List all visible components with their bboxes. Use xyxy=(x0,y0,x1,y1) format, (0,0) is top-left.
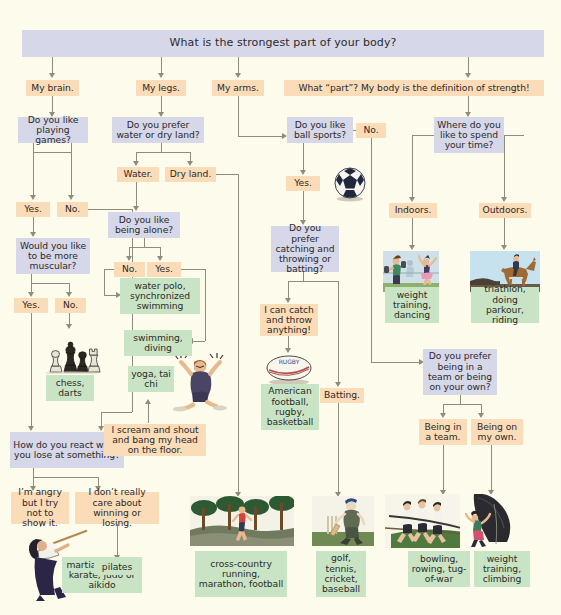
answer-muscular-no[interactable]: No. xyxy=(55,298,86,313)
arrow-musc-no xyxy=(66,292,72,297)
result-chess-darts: chess, darts xyxy=(46,375,94,401)
connector-games-bus xyxy=(33,152,71,153)
answer-what-part[interactable]: What “part”? My body is the definition o… xyxy=(284,80,544,96)
arrow-yes-muscular xyxy=(30,232,36,237)
result-weight-dancing: weight training, dancing xyxy=(385,287,439,323)
connector-gamesno-back xyxy=(101,412,132,413)
connector-cancatch-rugby xyxy=(288,336,289,348)
person-shouting-illustration xyxy=(172,352,236,412)
connector-lose-bus xyxy=(33,477,98,478)
connector-outdoors-triathlon xyxy=(504,218,505,245)
connector-aloneno-in xyxy=(104,295,116,296)
answer-i-scream[interactable]: I scream and shout and bang my head on t… xyxy=(104,424,206,456)
answer-muscular-yes[interactable]: Yes. xyxy=(14,298,48,313)
connector-arms-right xyxy=(238,136,282,137)
connector-dryland-right xyxy=(216,174,238,175)
arrow-where-indoors xyxy=(409,197,415,202)
answer-i-can-catch[interactable]: I can catch and throw anything! xyxy=(260,304,318,336)
connector-alone-no xyxy=(129,247,130,256)
connector-title-whatpart xyxy=(468,57,469,73)
connector-musc-no xyxy=(69,283,70,292)
answer-games-no[interactable]: No. xyxy=(57,202,88,217)
arrow-scream-yoga xyxy=(145,399,151,404)
connector-indoors-weight xyxy=(412,218,413,245)
answer-ball-no[interactable]: No. xyxy=(356,123,386,138)
answer-dry-land[interactable]: Dry land. xyxy=(165,167,216,182)
arrow-alone-yes xyxy=(157,256,163,261)
answer-water[interactable]: Water. xyxy=(117,167,159,182)
connector-alone-bus xyxy=(129,247,160,248)
question-catch-or-bat[interactable]: Do you prefer catching and throwing or b… xyxy=(271,226,339,272)
connector-myown-climbing xyxy=(491,445,492,490)
arrow-water-alone xyxy=(133,206,139,211)
connector-yes-muscular xyxy=(33,217,34,232)
answer-games-yes[interactable]: Yes. xyxy=(16,202,50,217)
question-more-muscular[interactable]: Would you like to be more muscular? xyxy=(16,238,90,274)
answer-my-arms[interactable]: My arms. xyxy=(212,80,264,96)
connector-title-arms xyxy=(238,57,239,73)
connector-legs-water xyxy=(161,96,162,112)
connector-aloneno-left xyxy=(104,269,114,270)
question-water-or-dryland[interactable]: Do you prefer water or dry land? xyxy=(112,117,204,143)
connector-title-brain xyxy=(52,57,53,73)
question-playing-games[interactable]: Do you like playing games? xyxy=(18,117,88,143)
answer-dont-really-care[interactable]: I don’t really care about winning or los… xyxy=(75,492,159,524)
answer-batting[interactable]: Batting. xyxy=(320,388,364,403)
connector-where-bus2 xyxy=(504,135,524,136)
connector-whatpart-where xyxy=(468,96,469,112)
answer-outdoors[interactable]: Outdoors. xyxy=(479,203,531,218)
connector-lose-left xyxy=(33,477,34,486)
question-where-spend-time[interactable]: Where do you like to spend your time? xyxy=(434,117,504,153)
connector-water-right xyxy=(190,152,191,161)
connector-ballno-down xyxy=(371,138,372,362)
result-american-football: American football, rugby, basketball xyxy=(261,384,319,430)
diagram-title: What is the strongest part of your body? xyxy=(22,30,544,57)
connector-yes-catch xyxy=(303,191,304,220)
arrow-musc-yes xyxy=(28,292,34,297)
result-weight-climbing: weight training, climbing xyxy=(474,551,530,587)
arrow-games-no xyxy=(68,195,74,200)
connector-ballno-right xyxy=(371,362,419,363)
connector-batting-golf xyxy=(338,403,339,492)
connector-water-a xyxy=(161,143,162,152)
tug-of-war-team-illustration xyxy=(385,494,471,548)
question-being-alone[interactable]: Do you like being alone? xyxy=(108,212,180,238)
answer-being-in-a-team[interactable]: Being in a team. xyxy=(419,419,467,445)
arrow-outdoors-triathlon xyxy=(501,245,507,250)
connector-games-no xyxy=(71,143,72,195)
connector-where-bus xyxy=(412,135,434,136)
result-swimming-diving: swimming, diving xyxy=(124,330,192,356)
connector-muscno-chess xyxy=(69,313,70,324)
answer-im-angry[interactable]: I’m angry but I try not to show it. xyxy=(11,492,69,524)
answer-my-brain[interactable]: My brain. xyxy=(26,80,79,96)
answer-being-on-my-own[interactable]: Being on my own. xyxy=(471,419,523,445)
arrow-indoors-weight xyxy=(409,245,415,250)
rock-climber-illustration xyxy=(460,494,524,548)
connector-dontcare-pilates xyxy=(117,524,118,555)
answer-ball-yes[interactable]: Yes. xyxy=(286,176,320,191)
connector-musc-yes-a xyxy=(31,274,32,283)
result-bowling-rowing: bowling, rowing, tug-of-war xyxy=(408,551,470,587)
connector-scream-yoga xyxy=(148,404,149,423)
connector-alone-yes xyxy=(160,247,161,256)
connector-catch-bus xyxy=(288,281,338,282)
svg-text:RUGBY: RUGBY xyxy=(279,358,300,365)
soccer-ball-illustration xyxy=(331,166,369,202)
connector-inteam-bowling xyxy=(443,445,444,490)
arrow-title-brain xyxy=(49,73,55,78)
answer-indoors[interactable]: Indoors. xyxy=(389,203,437,218)
result-cross-country: cross-country running, marathon, footbal… xyxy=(195,551,287,597)
connector-lose-a xyxy=(33,468,34,477)
result-water-polo: water polo, synchronized swimming xyxy=(120,278,200,314)
question-team-or-own[interactable]: Do you prefer being in a team or being o… xyxy=(423,349,497,395)
connector-aloneno-down xyxy=(104,269,105,295)
connector-catch-left xyxy=(288,281,289,298)
question-ball-sports[interactable]: Do you like ball sports? xyxy=(287,117,353,143)
connector-lose-right xyxy=(98,477,99,486)
answer-alone-yes[interactable]: Yes. xyxy=(147,262,181,277)
arrow-title-whatpart xyxy=(465,73,471,78)
arrow-title-legs xyxy=(158,73,164,78)
result-golf-tennis: golf, tennis, cricket, baseball xyxy=(316,551,366,597)
answer-alone-no[interactable]: No. xyxy=(114,262,145,277)
answer-my-legs[interactable]: My legs. xyxy=(136,80,186,96)
